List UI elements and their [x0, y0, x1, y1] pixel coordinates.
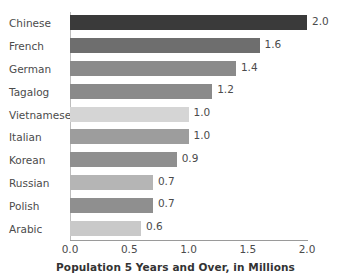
category-label: French	[0, 40, 44, 52]
bar	[70, 61, 236, 76]
category-label-row: Korean	[0, 149, 64, 172]
bar-row: 0.6	[70, 217, 307, 240]
bar-row: 0.7	[70, 194, 307, 217]
x-tick-label: 0.5	[121, 243, 138, 255]
x-axis-line	[70, 240, 308, 241]
category-label-row: German	[0, 58, 64, 81]
bar-row: 1.6	[70, 35, 307, 58]
category-label: Arabic	[0, 223, 42, 235]
x-axis-title: Population 5 Years and Over, in Millions	[0, 261, 351, 273]
category-label: Russian	[0, 177, 49, 189]
x-tick-label: 0.0	[62, 243, 79, 255]
category-label-row: Polish	[0, 194, 64, 217]
bar-row: 1.0	[70, 126, 307, 149]
category-label: Polish	[0, 200, 39, 212]
bar	[70, 221, 141, 236]
category-label: Italian	[0, 131, 42, 143]
category-label: Chinese	[0, 17, 51, 29]
bar-value-label: 0.7	[158, 196, 175, 211]
category-axis-labels: Chinese French German Tagalog Vietnamese…	[0, 12, 64, 240]
bar-row: 0.9	[70, 149, 307, 172]
bar-value-label: 1.0	[194, 128, 211, 143]
category-label-row: Russian	[0, 172, 64, 195]
bar-row: 0.7	[70, 172, 307, 195]
bar	[70, 107, 189, 122]
bar	[70, 129, 189, 144]
category-label: German	[0, 63, 51, 75]
bar-row: 2.0	[70, 12, 307, 35]
bar	[70, 38, 260, 53]
x-tick-label: 2.0	[299, 243, 316, 255]
bar	[70, 175, 153, 190]
bars-group: 2.0 1.6 1.4 1.2 1.0 1.0	[70, 12, 307, 240]
bar-value-label: 0.7	[158, 174, 175, 189]
bar-value-label: 1.6	[265, 37, 282, 52]
bar-value-label: 1.0	[194, 105, 211, 120]
x-axis-tick-labels: 0.0 0.5 1.0 1.5 2.0	[0, 243, 351, 257]
bar	[70, 15, 307, 30]
category-label-row: Tagalog	[0, 80, 64, 103]
x-tick-label: 1.5	[239, 243, 256, 255]
category-label-row: Arabic	[0, 217, 64, 240]
bar	[70, 84, 212, 99]
category-label-row: Italian	[0, 126, 64, 149]
x-tick-label: 1.0	[180, 243, 197, 255]
bar	[70, 198, 153, 213]
bar-row: 1.2	[70, 80, 307, 103]
bar-chart: Chinese French German Tagalog Vietnamese…	[0, 0, 351, 280]
bar-value-label: 1.2	[217, 82, 234, 97]
bar-value-label: 2.0	[312, 14, 329, 29]
category-label-row: Vietnamese	[0, 103, 64, 126]
category-label-row: French	[0, 35, 64, 58]
bar-value-label: 1.4	[241, 60, 258, 75]
category-label: Vietnamese	[0, 109, 71, 121]
category-label: Tagalog	[0, 86, 49, 98]
category-label: Korean	[0, 154, 45, 166]
bar-row: 1.4	[70, 58, 307, 81]
bar-row: 1.0	[70, 103, 307, 126]
bar	[70, 152, 177, 167]
category-label-row: Chinese	[0, 12, 64, 35]
plot-area: 2.0 1.6 1.4 1.2 1.0 1.0	[70, 12, 307, 240]
bar-value-label: 0.6	[146, 219, 163, 234]
bar-value-label: 0.9	[182, 151, 199, 166]
